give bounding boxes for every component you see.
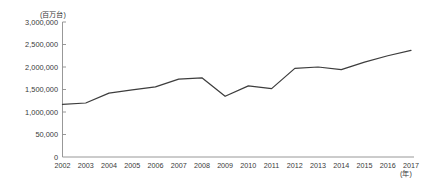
x-tick-label: 2007 [171, 161, 187, 170]
chart-canvas: (百万台) 050,0001,000,0001,500,0002,000,000… [0, 0, 422, 188]
x-tick-label-group: 2002200320042005200620072008200920102011… [55, 161, 420, 170]
x-axis-unit-label: (年) [400, 169, 412, 178]
x-tick-label: 2006 [147, 161, 163, 170]
x-tick-label: 2002 [55, 161, 71, 170]
y-tick-label: 2,500,000 [25, 40, 58, 49]
x-tick-label: 2014 [333, 161, 349, 170]
y-tick-mark-group [63, 22, 67, 135]
y-tick-label: 1,500,000 [25, 85, 58, 94]
x-tick-label: 2003 [78, 161, 94, 170]
y-tick-label: 3,000,000 [25, 18, 58, 27]
y-tick-label: 2,000,000 [25, 63, 58, 72]
x-tick-label: 2015 [357, 161, 373, 170]
x-tick-label: 2008 [194, 161, 210, 170]
x-tick-label: 2009 [217, 161, 233, 170]
x-tick-label: 2011 [264, 161, 279, 170]
x-tick-label: 2010 [240, 161, 256, 170]
y-tick-label: 1,000,000 [25, 108, 58, 117]
line-chart-figure: (百万台) 050,0001,000,0001,500,0002,000,000… [0, 0, 422, 188]
x-tick-label: 2013 [310, 161, 326, 170]
y-tick-label-group: 050,0001,000,0001,500,0002,000,0002,500,… [25, 18, 58, 162]
y-tick-label: 50,000 [35, 130, 58, 139]
x-tick-label: 2004 [101, 161, 117, 170]
data-series-line [63, 50, 412, 104]
x-tick-label: 2012 [287, 161, 303, 170]
x-tick-label: 2005 [124, 161, 140, 170]
x-tick-label: 2016 [380, 161, 396, 170]
